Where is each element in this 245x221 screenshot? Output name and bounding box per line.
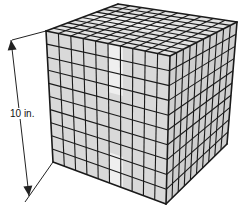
cube-diagram	[0, 0, 245, 221]
arrowhead-down-icon	[23, 186, 32, 196]
dimension-label: 10 in.	[9, 108, 35, 119]
cube	[46, 4, 237, 204]
extension-line-bottom	[25, 162, 53, 202]
arrowhead-up-icon	[8, 40, 17, 50]
extension-line-top	[12, 31, 46, 40]
